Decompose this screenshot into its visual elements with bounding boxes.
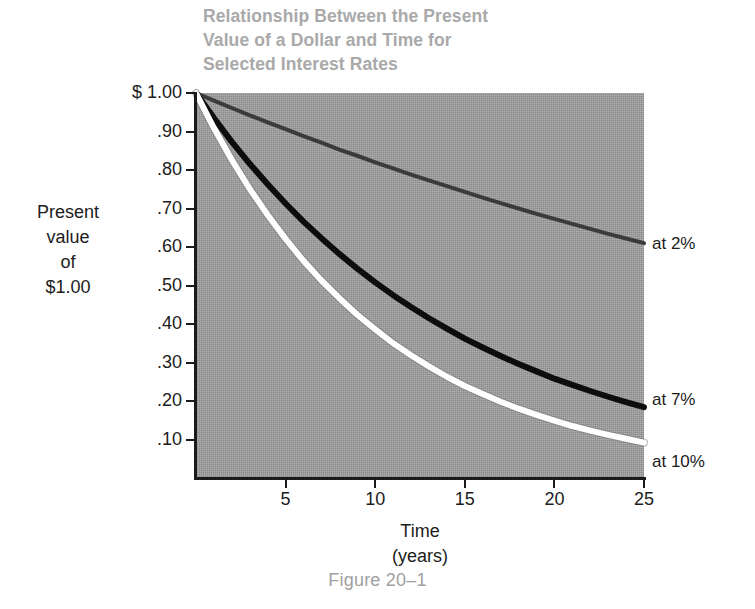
y-axis-tick-label: .20 — [102, 390, 182, 411]
y-axis-tick — [186, 131, 195, 133]
x-axis-tick — [553, 479, 555, 488]
x-axis-tick-label: 10 — [345, 489, 405, 510]
y-axis-tick — [186, 400, 195, 402]
y-axis-title: Present value of $1.00 — [8, 200, 128, 300]
curve-at-2-percent — [196, 93, 644, 243]
figure-caption: Figure 20–1 — [0, 570, 755, 591]
x-axis-tick-label: 25 — [614, 489, 674, 510]
y-axis-tick-label: .90 — [102, 121, 182, 142]
y-axis-tick-label: .40 — [102, 313, 182, 334]
curve-at-10-percent-halo — [196, 93, 644, 443]
x-axis-tick-label: 5 — [256, 489, 316, 510]
figure-container: Relationship Between the Present Value o… — [0, 0, 755, 609]
x-axis-title: Time (years) — [340, 519, 500, 569]
y-axis-tick — [186, 439, 195, 441]
y-axis-tick — [186, 362, 195, 364]
y-axis-tick — [186, 285, 195, 287]
x-axis-tick — [464, 479, 466, 488]
x-axis-tick — [643, 479, 645, 488]
y-axis-tick — [186, 246, 195, 248]
y-axis-tick — [186, 92, 195, 94]
y-axis-tick — [186, 208, 195, 210]
y-axis-tick-label: .10 — [102, 429, 182, 450]
y-axis-tick-label: .80 — [102, 159, 182, 180]
curve-at-10-percent — [196, 93, 644, 443]
x-axis-tick — [374, 479, 376, 488]
series-label-at-2-percent: at 2% — [652, 234, 695, 254]
series-label-at-10-percent: at 10% — [652, 452, 705, 472]
y-axis-tick — [186, 323, 195, 325]
chart-title: Relationship Between the Present Value o… — [203, 4, 623, 76]
curve-svg — [196, 93, 644, 478]
y-axis-tick-label: $ 1.00 — [102, 82, 182, 103]
y-axis-tick-label: .30 — [102, 352, 182, 373]
plot-area — [196, 93, 644, 478]
x-axis-tick-label: 20 — [524, 489, 584, 510]
x-axis-tick — [285, 479, 287, 488]
x-axis-line — [194, 477, 646, 480]
series-label-at-7-percent: at 7% — [652, 390, 695, 410]
x-axis-tick-label: 15 — [435, 489, 495, 510]
y-axis-tick — [186, 169, 195, 171]
